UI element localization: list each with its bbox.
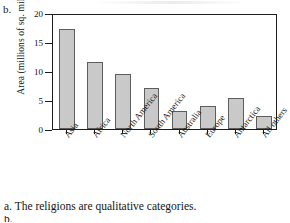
figure-caption-next-stub: b. bbox=[4, 216, 13, 222]
y-axis-tick bbox=[45, 101, 52, 102]
y-axis-tick bbox=[45, 14, 52, 15]
figure-panel-b: b. Area (millions of sq. miles) 05101520… bbox=[0, 0, 290, 223]
figure-caption: a. The religions are qualitative categor… bbox=[4, 200, 196, 213]
part-label: b. bbox=[3, 4, 11, 15]
bar bbox=[59, 29, 75, 129]
y-axis-tick-label: 5 bbox=[21, 97, 43, 106]
y-axis-tick-label: 20 bbox=[21, 10, 43, 19]
y-axis-tick-label: 10 bbox=[21, 68, 43, 77]
y-axis-tick bbox=[45, 130, 52, 131]
y-axis-tick-label: 0 bbox=[21, 126, 43, 135]
scan-artifact bbox=[96, 1, 246, 4]
y-axis-tick bbox=[45, 72, 52, 73]
y-axis-tick bbox=[45, 43, 52, 44]
y-axis-tick-label: 15 bbox=[21, 39, 43, 48]
